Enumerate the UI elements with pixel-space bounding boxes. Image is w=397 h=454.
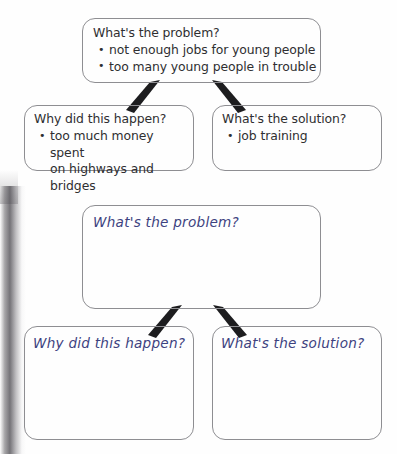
template-solution-heading: What's the solution? [221, 335, 365, 351]
template-problem-heading: What's the problem? [93, 214, 239, 230]
list-item: job training [226, 128, 378, 145]
template-cause-heading: Why did this happen? [33, 335, 185, 351]
example-solution-heading: What's the solution? [222, 111, 346, 128]
example-problem-bullets: not enough jobs for young people too man… [97, 42, 317, 75]
example-cause-bullets: too much money spent on highways and bri… [38, 128, 190, 194]
list-item: too many young people in trouble [97, 59, 317, 76]
example-cause-heading: Why did this happen? [34, 111, 166, 128]
worksheet-page: What's the problem? not enough jobs for … [0, 0, 397, 454]
example-solution-bullets: job training [226, 128, 378, 145]
list-item: not enough jobs for young people [97, 42, 317, 59]
list-item: too much money spent on highways and bri… [38, 128, 190, 194]
page-gutter-shadow [0, 186, 26, 454]
example-problem-heading: What's the problem? [93, 25, 220, 42]
page-gutter-shadow-fade [0, 170, 18, 204]
